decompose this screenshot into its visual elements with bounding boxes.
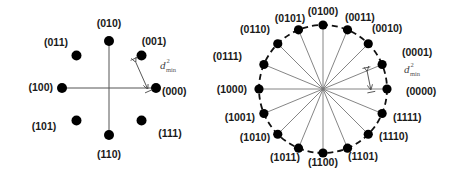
constellation-point bbox=[104, 130, 114, 140]
spoke bbox=[323, 44, 368, 89]
dmin-superscript: 2 bbox=[411, 61, 414, 68]
constellation-point bbox=[137, 116, 147, 126]
constellation-point bbox=[104, 36, 114, 46]
spoke bbox=[278, 44, 323, 89]
point-label: (001) bbox=[142, 35, 167, 47]
dmin-tick bbox=[363, 67, 371, 69]
point-label: (1010) bbox=[240, 131, 270, 143]
point-label: (011) bbox=[44, 36, 68, 48]
point-label: (1110) bbox=[379, 130, 408, 142]
constellation-point bbox=[71, 50, 81, 60]
dmin-tick bbox=[367, 91, 375, 93]
constellation-point bbox=[71, 116, 81, 126]
point-label: (101) bbox=[32, 120, 57, 132]
point-label: (0111) bbox=[213, 50, 242, 62]
constellation-point bbox=[57, 83, 67, 93]
point-label: (010) bbox=[97, 17, 122, 29]
constellation-point bbox=[364, 39, 373, 48]
constellation-point bbox=[378, 109, 387, 118]
constellation-point bbox=[151, 83, 161, 93]
point-label: (1001) bbox=[225, 111, 255, 123]
constellation-point bbox=[137, 50, 147, 60]
point-label: (1100) bbox=[308, 156, 338, 168]
constellation-point bbox=[378, 60, 387, 69]
constellation-point bbox=[343, 25, 352, 34]
constellation-point bbox=[259, 60, 268, 69]
spoke bbox=[323, 89, 368, 134]
point-label: (0101) bbox=[275, 12, 305, 24]
constellation-point bbox=[294, 25, 303, 34]
constellation-point bbox=[259, 109, 268, 118]
dmin-arrow bbox=[367, 71, 371, 90]
16psk-constellation: (0000)(0001)(0010)(0011)(0100)(0101)(011… bbox=[213, 5, 437, 168]
dmin-superscript: 2 bbox=[167, 57, 170, 64]
dmin-subscript: min bbox=[166, 66, 177, 73]
constellation-point bbox=[382, 84, 391, 93]
point-label: (110) bbox=[97, 148, 121, 160]
point-label: (0011) bbox=[345, 11, 375, 23]
constellation-point bbox=[273, 39, 282, 48]
8psk-constellation: (000)(001)(010)(011)(100)(101)(110)(111)… bbox=[28, 17, 186, 160]
point-labels: (0000)(0001)(0010)(0011)(0100)(0101)(011… bbox=[213, 5, 437, 168]
point-label: (1000) bbox=[217, 83, 247, 95]
point-label: (1101) bbox=[348, 150, 378, 162]
point-label: (0010) bbox=[372, 22, 402, 34]
dmin-arrow bbox=[135, 61, 147, 88]
constellation-point bbox=[273, 130, 282, 139]
point-label: (1111) bbox=[393, 111, 422, 123]
constellation-point bbox=[254, 84, 263, 93]
constellation-point bbox=[364, 130, 373, 139]
point-label: (0001) bbox=[402, 46, 432, 58]
spoke bbox=[278, 89, 323, 134]
point-label: (100) bbox=[28, 81, 53, 93]
point-label: (1011) bbox=[270, 151, 300, 163]
point-label: (111) bbox=[158, 127, 181, 139]
dmin-subscript: min bbox=[410, 70, 421, 77]
dmin-tick bbox=[145, 90, 152, 93]
point-label: (0110) bbox=[240, 23, 270, 35]
dmin-tick bbox=[131, 57, 138, 60]
constellation-point bbox=[318, 20, 327, 29]
point-label: (0000) bbox=[406, 85, 436, 97]
psk-constellation-diagram: (000)(001)(010)(011)(100)(101)(110)(111)… bbox=[0, 0, 453, 178]
point-label: (000) bbox=[162, 85, 187, 97]
point-label: (0100) bbox=[308, 5, 338, 17]
